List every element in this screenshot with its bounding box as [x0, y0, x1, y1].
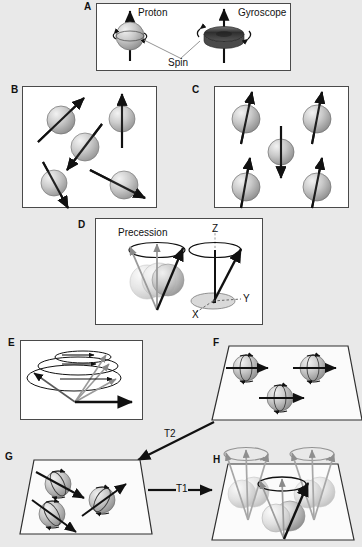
panel-label-d: D — [78, 220, 85, 230]
panel-e-graphics — [20, 340, 143, 420]
panel-c-graphics — [214, 86, 349, 208]
panel-h-graphics — [198, 444, 362, 547]
panel-d-axis-x-label: X — [192, 310, 199, 320]
panel-d-precession-label: Precession — [118, 228, 167, 238]
t2-label: T2 — [164, 429, 176, 439]
panel-a-spin-label: Spin — [168, 58, 188, 68]
panel-label-g: G — [5, 452, 13, 462]
panel-label-b: B — [11, 85, 18, 95]
t1-label: T1 — [176, 484, 188, 494]
panel-d-axis-y-label: Y — [243, 294, 250, 304]
nmr-spin-figure: A — [0, 0, 362, 547]
panel-f-graphics — [196, 340, 362, 426]
panel-b-graphics — [22, 86, 157, 208]
panel-label-a: A — [84, 2, 91, 12]
panel-g-graphics — [14, 456, 156, 544]
panel-label-c: C — [192, 85, 199, 95]
panel-d-axis-z-label: Z — [212, 224, 218, 234]
panel-label-e: E — [8, 338, 15, 348]
panel-a-gyroscope-label: Gyroscope — [238, 8, 286, 18]
panel-a-proton-label: Proton — [138, 8, 167, 18]
